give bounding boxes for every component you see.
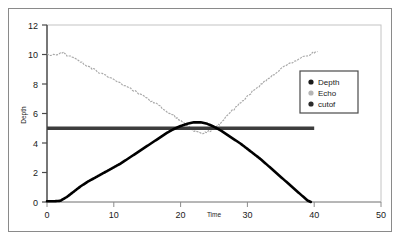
legend-label-echo: Echo	[318, 89, 337, 98]
y-tick-label-0: 0	[33, 198, 38, 208]
x-tick-label-10: 10	[109, 210, 119, 220]
y-tick-label-2: 2	[33, 168, 38, 178]
chart-canvas: 0 2 4 6 8 10 12 0 10 20 30 40 50 Time De…	[0, 0, 401, 245]
x-tick-label-0: 0	[44, 210, 49, 220]
x-axis-ticks	[47, 202, 381, 207]
x-tick-label-40: 40	[309, 210, 319, 220]
y-tick-label-10: 10	[28, 50, 38, 60]
legend-marker-echo	[308, 90, 313, 95]
x-axis-title: Time	[207, 211, 222, 218]
chart-figure: 0 2 4 6 8 10 12 0 10 20 30 40 50 Time De…	[0, 0, 401, 245]
x-tick-label-30: 30	[242, 210, 252, 220]
y-tick-label-12: 12	[28, 21, 38, 31]
y-axis-title: Depth	[20, 106, 28, 124]
legend-label-depth: Depth	[318, 78, 339, 87]
y-tick-label-8: 8	[33, 80, 38, 90]
x-tick-label-50: 50	[376, 210, 386, 220]
legend-label-cutof: cutof	[318, 100, 336, 109]
y-axis-ticks	[42, 25, 47, 202]
legend[interactable]: Depth Echo cutof	[300, 71, 358, 113]
legend-marker-depth	[308, 79, 313, 84]
y-tick-label-6: 6	[33, 109, 38, 119]
legend-marker-cutof	[308, 101, 313, 106]
x-tick-label-20: 20	[176, 210, 186, 220]
y-tick-label-4: 4	[33, 139, 38, 149]
